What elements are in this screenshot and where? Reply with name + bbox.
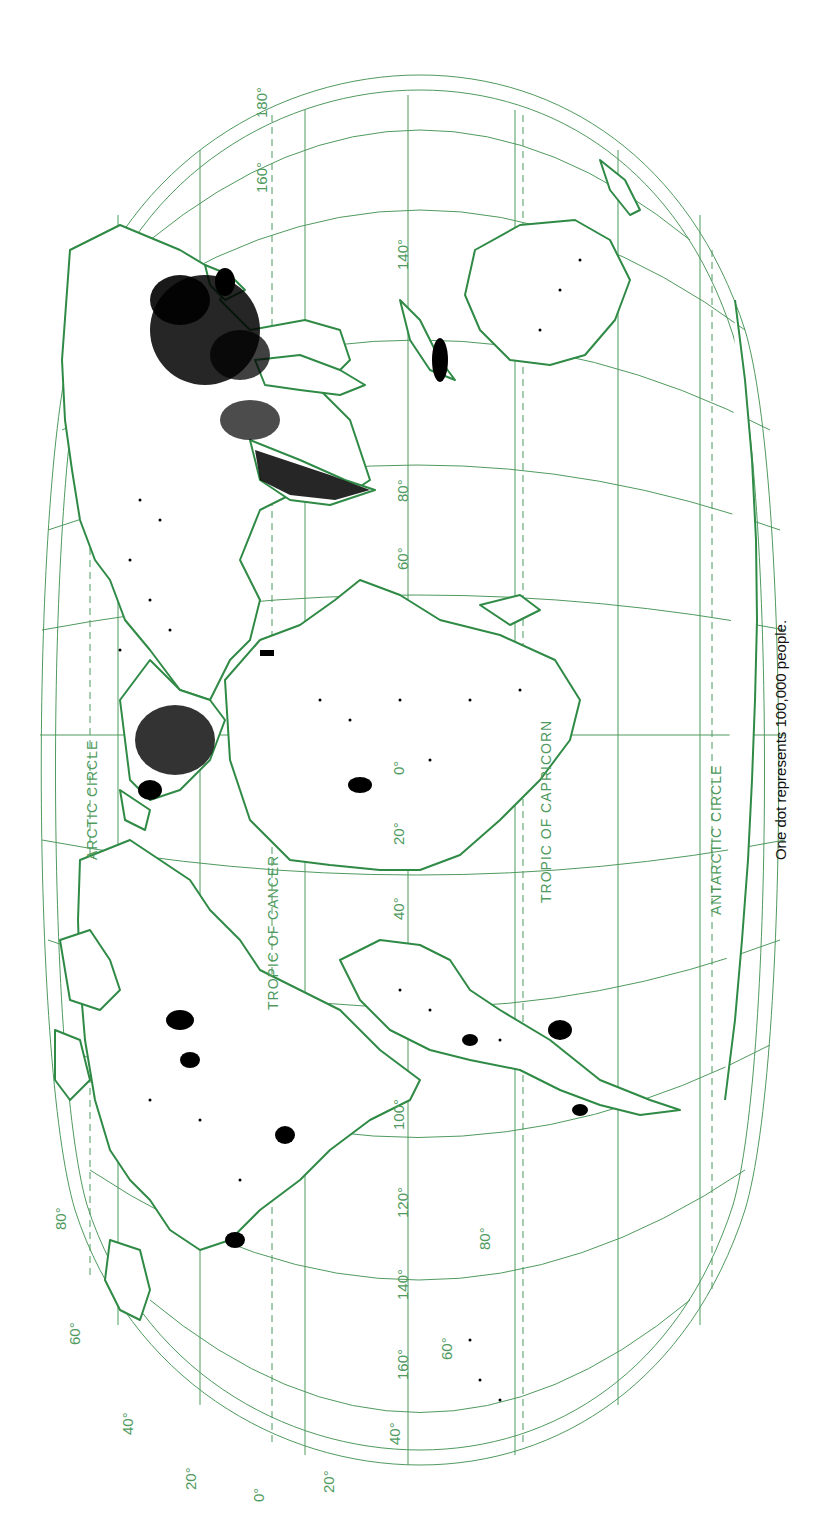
- svg-text:60°: 60°: [394, 547, 411, 570]
- svg-text:60°: 60°: [66, 1322, 83, 1345]
- tropic-of-capricorn-label: TROPIC OF CAPRICORN: [538, 720, 554, 903]
- svg-text:0°: 0°: [390, 761, 407, 775]
- svg-text:0°: 0°: [250, 1488, 267, 1502]
- svg-text:20°: 20°: [390, 822, 407, 845]
- svg-text:80°: 80°: [52, 1207, 69, 1230]
- tropic-of-cancer-label: TROPIC OF CANCER: [265, 855, 281, 1010]
- svg-text:20°: 20°: [320, 1470, 337, 1493]
- svg-text:100°: 100°: [390, 1099, 407, 1130]
- svg-text:180°: 180°: [253, 87, 270, 118]
- antarctica: [725, 300, 757, 1100]
- svg-text:160°: 160°: [253, 162, 270, 193]
- svg-text:40°: 40°: [119, 1412, 136, 1435]
- antarctic-circle-label: ANTARCTIC CIRCLE: [708, 765, 724, 915]
- map-caption: One dot represents 100,000 people.: [772, 620, 789, 860]
- svg-text:60°: 60°: [438, 1337, 455, 1360]
- alaska: [105, 1240, 150, 1320]
- svg-text:140°: 140°: [394, 239, 411, 270]
- population-dot-map: ARCTIC CIRCLE TROPIC OF CANCER TROPIC OF…: [0, 0, 813, 1539]
- svg-text:140°: 140°: [394, 1269, 411, 1300]
- north-america: [78, 840, 420, 1250]
- arctic-circle-label: ARCTIC CIRCLE: [84, 740, 100, 860]
- madagascar: [480, 595, 540, 625]
- svg-text:120°: 120°: [394, 1187, 411, 1218]
- map-svg: ARCTIC CIRCLE TROPIC OF CANCER TROPIC OF…: [0, 0, 813, 1539]
- svg-text:80°: 80°: [394, 479, 411, 502]
- svg-text:80°: 80°: [476, 1227, 493, 1250]
- new-zealand: [600, 160, 640, 215]
- svg-text:40°: 40°: [390, 897, 407, 920]
- svg-text:160°: 160°: [394, 1349, 411, 1380]
- svg-text:20°: 20°: [182, 1467, 199, 1490]
- svg-text:40°: 40°: [386, 1422, 403, 1445]
